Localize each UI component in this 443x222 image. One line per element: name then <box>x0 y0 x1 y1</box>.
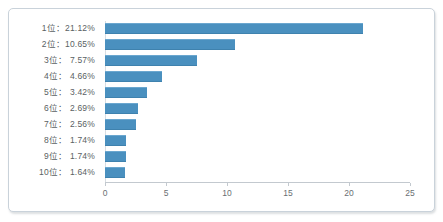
bar-row: 7位： 2.56% <box>9 117 436 133</box>
chart-plot-area: 1位：21.12%2位：10.65%3位： 7.57%4位： 4.66%5位： … <box>9 9 436 213</box>
x-axis-tick-label: 20 <box>344 187 353 199</box>
bar <box>105 167 125 178</box>
bar-category-label: 10位： 1.64% <box>0 166 95 179</box>
bar-track <box>105 39 410 50</box>
bar <box>105 55 197 66</box>
bar <box>105 23 363 34</box>
tick-mark <box>410 183 411 186</box>
chart-frame: 1位：21.12%2位：10.65%3位： 7.57%4位： 4.66%5位： … <box>8 8 435 212</box>
bar-category-label: 1位：21.12% <box>0 22 95 35</box>
bar-track <box>105 87 410 98</box>
bar-row: 10位： 1.64% <box>9 165 436 181</box>
bar-row: 5位： 3.42% <box>9 85 436 101</box>
bar-category-label: 8位： 1.74% <box>0 134 95 147</box>
tick-mark <box>288 183 289 186</box>
bar <box>105 39 235 50</box>
bar-row: 6位： 2.69% <box>9 101 436 117</box>
tick-mark <box>349 183 350 186</box>
bar-row: 3位： 7.57% <box>9 53 436 69</box>
bar-row: 8位： 1.74% <box>9 133 436 149</box>
bar-category-label: 2位：10.65% <box>0 38 95 51</box>
bar-category-label: 3位： 7.57% <box>0 54 95 67</box>
bar-row: 1位：21.12% <box>9 21 436 37</box>
bar-category-label: 7位： 2.56% <box>0 118 95 131</box>
bar-row: 9位： 1.74% <box>9 149 436 165</box>
bar <box>105 71 162 82</box>
bar <box>105 135 126 146</box>
bar-category-label: 9位： 1.74% <box>0 150 95 163</box>
tick-mark <box>166 183 167 186</box>
x-axis-tick-label: 5 <box>164 187 169 199</box>
bar <box>105 103 138 114</box>
x-axis-tick-label: 0 <box>103 187 108 199</box>
bar-row: 4位： 4.66% <box>9 69 436 85</box>
tick-mark <box>227 183 228 186</box>
bar-track <box>105 135 410 146</box>
bar-track <box>105 71 410 82</box>
x-axis-ticks: 0510152025 <box>105 183 410 205</box>
bar-category-label: 4位： 4.66% <box>0 70 95 83</box>
tick-mark <box>105 183 106 186</box>
bar-category-label: 5位： 3.42% <box>0 86 95 99</box>
bar <box>105 87 147 98</box>
bar <box>105 119 136 130</box>
x-axis-tick-label: 10 <box>222 187 231 199</box>
x-axis-tick-label: 25 <box>405 187 414 199</box>
bar-category-label: 6位： 2.69% <box>0 102 95 115</box>
bar-track <box>105 119 410 130</box>
bar-row: 2位：10.65% <box>9 37 436 53</box>
bar <box>105 151 126 162</box>
bar-track <box>105 55 410 66</box>
bar-track <box>105 23 410 34</box>
bar-series: 1位：21.12%2位：10.65%3位： 7.57%4位： 4.66%5位： … <box>9 21 436 182</box>
x-axis-tick-label: 15 <box>283 187 292 199</box>
bar-track <box>105 167 410 178</box>
bar-track <box>105 103 410 114</box>
bar-track <box>105 151 410 162</box>
